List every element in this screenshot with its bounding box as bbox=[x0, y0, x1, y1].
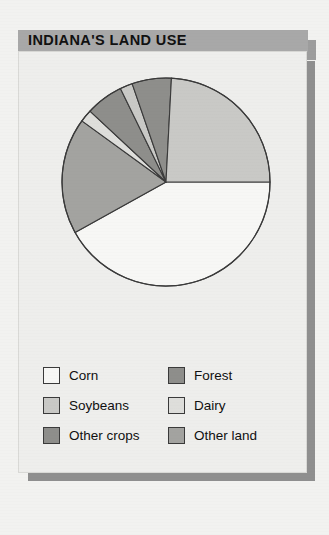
pie-chart bbox=[60, 76, 272, 288]
legend-swatch-other-crops bbox=[43, 427, 60, 444]
legend-swatch-other-land bbox=[168, 427, 185, 444]
legend-row: Other cropsOther land bbox=[43, 420, 293, 450]
figure-root: INDIANA'S LAND USE CornForestSoybeansDai… bbox=[0, 0, 329, 535]
pie-slice-soybeans-6 bbox=[166, 78, 270, 182]
legend-label: Dairy bbox=[194, 398, 226, 413]
legend-row: CornForest bbox=[43, 360, 293, 390]
legend-label: Other crops bbox=[69, 428, 140, 443]
legend-label: Other land bbox=[194, 428, 257, 443]
legend-item-soybeans[interactable]: Soybeans bbox=[43, 397, 168, 414]
legend-swatch-forest bbox=[168, 367, 185, 384]
legend-swatch-soybeans bbox=[43, 397, 60, 414]
chart-legend: CornForestSoybeansDairyOther cropsOther … bbox=[43, 360, 293, 450]
legend-item-other-crops[interactable]: Other crops bbox=[43, 427, 168, 444]
legend-item-dairy[interactable]: Dairy bbox=[168, 397, 293, 414]
legend-swatch-dairy bbox=[168, 397, 185, 414]
page-title: INDIANA'S LAND USE bbox=[28, 32, 187, 48]
legend-label: Corn bbox=[69, 368, 98, 383]
legend-label: Forest bbox=[194, 368, 232, 383]
legend-row: SoybeansDairy bbox=[43, 390, 293, 420]
chart-panel: CornForestSoybeansDairyOther cropsOther … bbox=[18, 51, 307, 473]
legend-item-corn[interactable]: Corn bbox=[43, 367, 168, 384]
legend-label: Soybeans bbox=[69, 398, 129, 413]
legend-item-other-land[interactable]: Other land bbox=[168, 427, 293, 444]
legend-item-forest[interactable]: Forest bbox=[168, 367, 293, 384]
pie-chart-svg bbox=[60, 76, 272, 288]
legend-swatch-corn bbox=[43, 367, 60, 384]
